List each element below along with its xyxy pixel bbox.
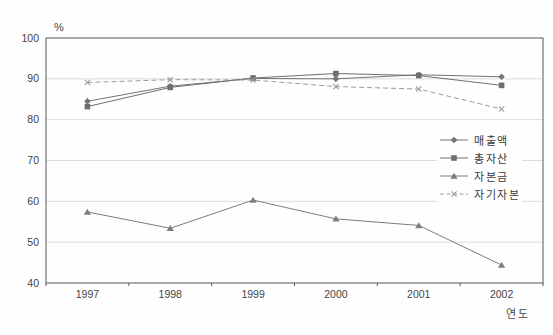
square-marker: [499, 83, 505, 89]
series-line-x: [87, 80, 501, 109]
square-marker: [333, 71, 339, 77]
x-axis-tick-label: 2001: [407, 288, 431, 300]
x-axis-tick-label: 1999: [241, 288, 265, 300]
chart-legend: 매출액 총자산 자본금 자기자본: [437, 131, 522, 203]
y-axis-tick-label: 90: [27, 72, 39, 84]
square-marker: [167, 85, 173, 91]
triangle-marker-icon: [439, 170, 469, 182]
diamond-marker-icon: [439, 134, 469, 146]
x-axis-label: 연도: [506, 305, 530, 321]
square-marker: [85, 104, 91, 110]
legend-label: 총자산: [474, 150, 509, 166]
diamond-marker: [333, 76, 340, 83]
chart-figure: % 40506070809010019971998199920002001200…: [0, 0, 553, 335]
diamond-marker: [84, 98, 91, 105]
series-line-triangle: [87, 200, 501, 265]
square-marker-icon: [439, 152, 469, 164]
y-axis-tick-label: 50: [27, 236, 39, 248]
y-axis-tick-label: 80: [27, 113, 39, 125]
y-axis-tick-label: 60: [27, 195, 39, 207]
legend-item-total-assets: 총자산: [439, 149, 520, 167]
x-axis-tick-label: 2000: [324, 288, 348, 300]
x-marker-icon: [439, 188, 469, 200]
legend-item-equity: 자기자본: [439, 185, 520, 203]
triangle-marker: [498, 262, 505, 268]
x-marker: [499, 106, 504, 111]
x-axis-tick-label: 2002: [490, 288, 514, 300]
y-axis-tick-label: 70: [27, 154, 39, 166]
square-marker: [416, 73, 422, 79]
legend-item-capital-stock: 자본금: [439, 167, 520, 185]
triangle-marker: [249, 197, 256, 203]
x-axis-tick-label: 1998: [159, 288, 183, 300]
triangle-marker: [84, 209, 91, 215]
legend-label: 자본금: [474, 168, 509, 184]
y-axis-tick-label: 40: [27, 277, 39, 289]
y-axis-tick-label: 100: [21, 32, 39, 44]
x-axis-tick-label: 1997: [76, 288, 100, 300]
legend-label: 매출액: [474, 132, 509, 148]
legend-item-sales: 매출액: [439, 131, 520, 149]
legend-label: 자기자본: [474, 186, 520, 202]
